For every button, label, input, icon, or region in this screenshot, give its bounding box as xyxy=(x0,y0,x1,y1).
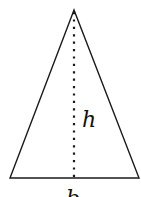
base-label: b xyxy=(66,186,80,197)
height-label: h xyxy=(82,107,96,132)
triangle-diagram: h b xyxy=(0,0,141,197)
